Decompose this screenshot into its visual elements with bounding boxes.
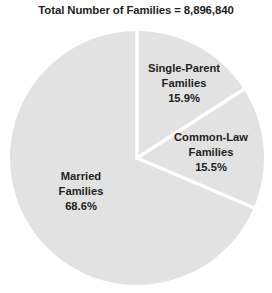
pie-label-married-percent: 68.6% (28, 199, 134, 214)
pie-label-married: Married Families 68.6% (28, 169, 134, 215)
pie-label-married-line2: Families (59, 185, 104, 197)
pie-label-single-parent-line1: Single-Parent (148, 62, 220, 74)
pie-label-single-parent-line2: Families (162, 77, 207, 89)
pie-label-married-line1: Married (61, 170, 101, 182)
pie-label-common-law: Common-Law Families 15.5% (156, 130, 266, 176)
pie-label-single-parent-percent: 15.9% (132, 91, 236, 106)
pie-label-single-parent: Single-Parent Families 15.9% (132, 61, 236, 107)
pie-chart-figure: Total Number of Families = 8,896,840 Sin… (0, 0, 272, 293)
pie-label-common-law-line2: Families (189, 146, 234, 158)
pie-label-common-law-percent: 15.5% (156, 160, 266, 175)
pie-label-common-law-line1: Common-Law (174, 131, 248, 143)
